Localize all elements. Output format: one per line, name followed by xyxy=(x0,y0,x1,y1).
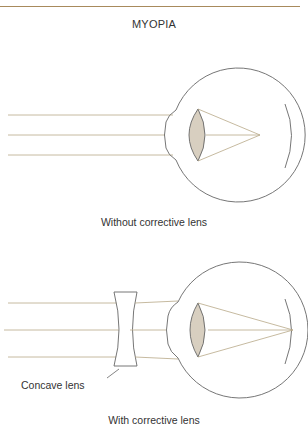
concave-lens-label: Concave lens xyxy=(21,379,85,391)
caption-without-lens: Without corrective lens xyxy=(0,216,308,228)
eye-without-lens xyxy=(8,68,305,202)
caption-with-lens: With corrective lens xyxy=(0,414,308,426)
eye-with-lens xyxy=(4,262,308,398)
